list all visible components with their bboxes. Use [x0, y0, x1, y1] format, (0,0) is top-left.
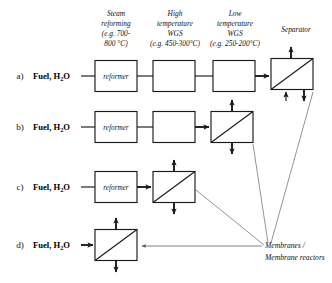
header-line: (e.g. 700-: [102, 29, 131, 38]
row-letter-b: b): [16, 122, 24, 132]
column-header-separator: Separator: [281, 25, 311, 34]
header-line: (e.g. 250-200°C): [210, 39, 260, 48]
column-header-low-temperature-wgs: Low temperature WGS (e.g. 250-200°C): [210, 9, 260, 48]
annotation-line-1: Membranes /: [264, 241, 306, 250]
reformer-label-c: reformer: [103, 184, 128, 192]
reformer-label-b: reformer: [103, 124, 128, 132]
header-line: 800 °C): [104, 39, 128, 48]
header-line: High: [167, 9, 183, 18]
row-d: d) Fuel, H2O: [16, 218, 137, 272]
row-letter-c: c): [16, 182, 23, 192]
feed-label-b: Fuel, H2O: [33, 122, 70, 133]
feed-label-d: Fuel, H2O: [33, 240, 70, 251]
header-line: temperature: [217, 19, 254, 28]
column-header-high-temperature-wgs: High temperature WGS (e.g. 450-300°C): [150, 9, 200, 48]
column-header-steam-reforming: Steam reforming (e.g. 700- 800 °C): [101, 9, 131, 48]
feed-label-a: Fuel, H2O: [33, 71, 70, 82]
feed-label-c: Fuel, H2O: [33, 182, 70, 193]
header-line: WGS: [167, 29, 182, 38]
membranes-annotation: Membranes / Membrane reactors: [264, 241, 325, 262]
reformer-label-a: reformer: [103, 73, 128, 81]
leader-to-membrane-c: [196, 190, 264, 245]
leader-to-membrane-b: [253, 144, 268, 243]
row-b: b) Fuel, H2O reformer: [16, 100, 253, 154]
header-line: Separator: [281, 25, 311, 34]
header-line: (e.g. 450-300°C): [150, 39, 200, 48]
header-line: Low: [228, 9, 242, 18]
header-line: reforming: [101, 19, 131, 28]
process-flow-diagram: Steam reforming (e.g. 700- 800 °C) High …: [0, 0, 332, 283]
row-a: a) Fuel, H2O reformer: [16, 47, 313, 101]
row-letter-d: d): [16, 240, 24, 250]
annotation-line-2: Membrane reactors: [264, 253, 325, 262]
header-line: temperature: [157, 19, 194, 28]
flow-diagram-canvas: Steam reforming (e.g. 700- 800 °C) High …: [0, 0, 332, 283]
header-line: Steam: [107, 9, 126, 18]
row-letter-a: a): [16, 71, 23, 81]
row-c: c) Fuel, H2O reformer: [16, 160, 195, 214]
header-line: WGS: [227, 29, 242, 38]
ht-wgs-box-b: [153, 112, 195, 143]
ht-wgs-box-a: [153, 61, 195, 92]
lt-wgs-box-a: [213, 61, 255, 92]
leader-to-separator-a: [271, 92, 313, 243]
